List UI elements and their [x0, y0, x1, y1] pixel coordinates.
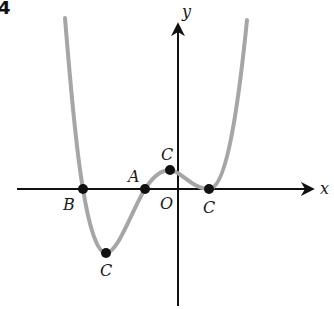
x-axis-label: x [320, 179, 329, 198]
point-b [78, 184, 88, 194]
point-a [140, 184, 150, 194]
y-axis-label: y [181, 2, 192, 21]
point-c-right [204, 184, 214, 194]
polynomial-curve [65, 18, 247, 253]
label-a: A [126, 167, 140, 186]
point-c-max [165, 165, 175, 175]
point-c-min [101, 248, 111, 258]
origin-label: O [160, 194, 173, 213]
polynomial-graph-figure: 4 y x O B C A C C [0, 0, 334, 309]
label-b: B [62, 195, 75, 214]
label-c-max: C [161, 145, 173, 164]
figure-number: 4 [0, 0, 11, 18]
label-c-min: C [100, 261, 112, 280]
label-c-right: C [203, 198, 215, 217]
